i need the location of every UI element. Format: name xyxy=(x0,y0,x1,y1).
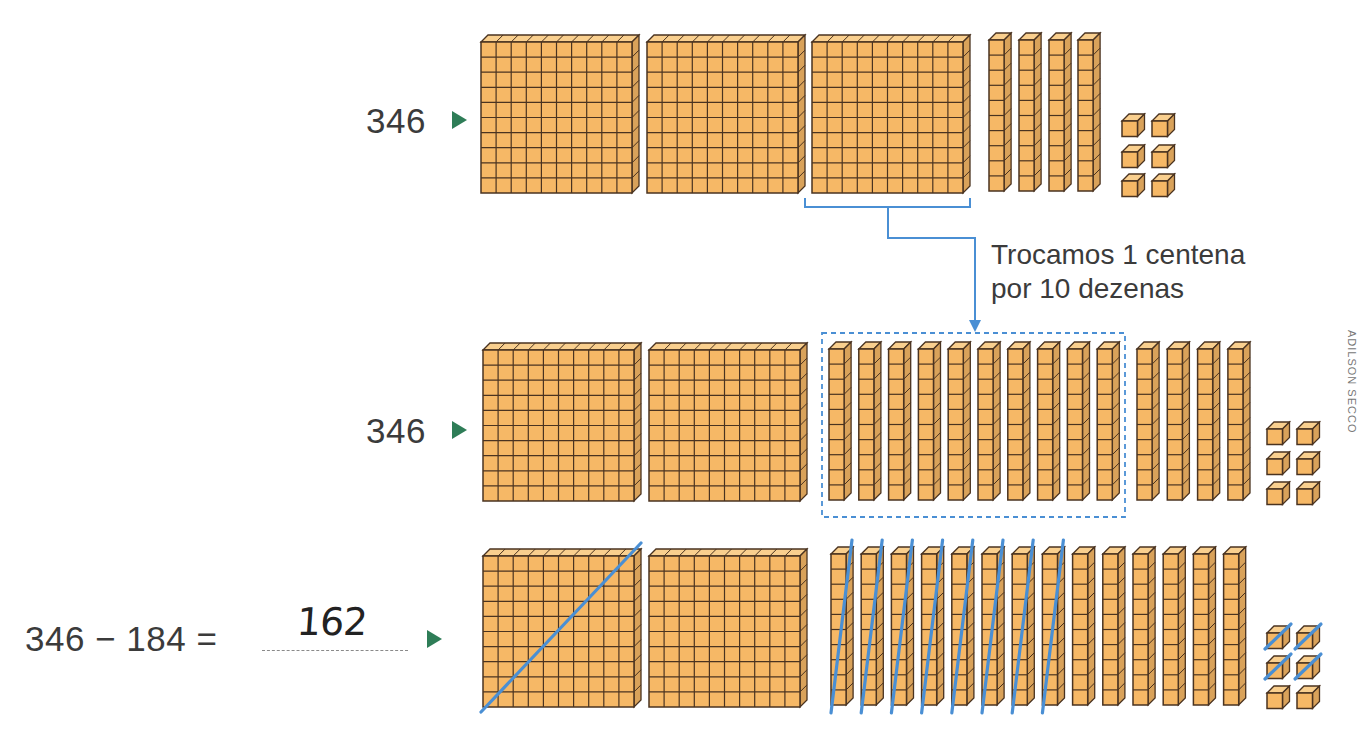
unit-cube-block xyxy=(1267,686,1290,709)
ten-rod-block xyxy=(1073,547,1095,705)
base-ten-blocks-illustration xyxy=(0,0,1361,747)
ten-rod-block xyxy=(1193,547,1215,705)
ten-rod-block xyxy=(1198,342,1220,500)
ten-rod-block xyxy=(1167,342,1189,500)
ten-rod-block xyxy=(1163,547,1185,705)
ten-rod-block xyxy=(1224,547,1246,705)
unit-cube-block xyxy=(1267,422,1290,445)
ten-rod-block xyxy=(1133,547,1155,705)
ten-rod-block xyxy=(989,33,1011,191)
unit-cube-block xyxy=(1267,482,1290,505)
unit-cube-block xyxy=(1152,174,1175,197)
unit-cube-block xyxy=(1122,174,1145,197)
unit-cube-block xyxy=(1152,145,1175,168)
ten-rod-block xyxy=(1137,342,1159,500)
ten-rod-block xyxy=(1078,33,1100,191)
ten-rod-block xyxy=(1038,342,1060,500)
hundred-flat-block xyxy=(647,35,805,193)
ten-rod-block xyxy=(1049,33,1071,191)
ten-rod-block xyxy=(1019,33,1041,191)
hundred-flat-block xyxy=(649,549,807,707)
ten-rod-block xyxy=(859,342,881,500)
hundred-flat-block xyxy=(812,35,970,193)
ten-rod-block xyxy=(1097,342,1119,500)
unit-cube-block xyxy=(1297,452,1320,475)
ten-rod-block xyxy=(1067,342,1089,500)
ten-rod-block xyxy=(829,342,851,500)
unit-cube-block xyxy=(1267,452,1290,475)
ten-rod-block xyxy=(889,342,911,500)
unit-cube-block xyxy=(1152,114,1175,137)
unit-cube-block xyxy=(1297,686,1320,709)
hundred-flat-block xyxy=(649,343,807,501)
unit-cube-block xyxy=(1122,145,1145,168)
ten-rod-block xyxy=(1103,547,1125,705)
hundred-flat-block xyxy=(481,35,639,193)
ten-rod-block xyxy=(1008,342,1030,500)
ten-rod-block xyxy=(1228,342,1250,500)
unit-cube-block xyxy=(1122,114,1145,137)
ten-rod-block xyxy=(918,342,940,500)
ten-rod-block xyxy=(978,342,1000,500)
ten-rod-block xyxy=(948,342,970,500)
arrow-down-icon xyxy=(969,320,981,332)
unit-cube-block xyxy=(1297,482,1320,505)
hundred-flat-block xyxy=(483,343,641,501)
unit-cube-block xyxy=(1297,422,1320,445)
exchange-bracket-arrow xyxy=(805,198,981,332)
